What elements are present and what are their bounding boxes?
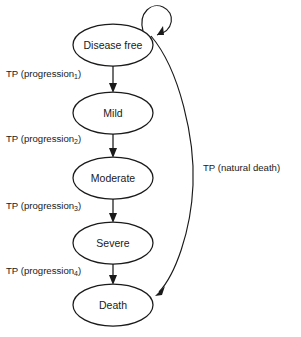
state-transition-diagram: Disease free Mild Moderate Severe Death …: [0, 0, 301, 337]
edge-label-progression-3-prefix: TP (progression: [6, 200, 74, 211]
edge-natural-death: [151, 36, 193, 296]
edge-label-progression-4-suffix: ): [78, 265, 81, 276]
node-mild[interactable]: Mild: [73, 92, 153, 134]
node-death[interactable]: Death: [73, 284, 153, 326]
edge-progression-4: [109, 264, 117, 285]
node-disease-free[interactable]: Disease free: [73, 24, 153, 66]
node-severe[interactable]: Severe: [73, 222, 153, 264]
natural-death-path: [151, 36, 193, 292]
edge-progression-3: [109, 199, 117, 223]
edge-label-progression-2-suffix: ): [78, 133, 81, 144]
natural-death-arrowhead: [155, 286, 165, 296]
edge-label-progression-3-suffix: ): [78, 200, 81, 211]
edge-label-progression-4: TP (progression4): [6, 265, 81, 277]
moderate-label: Moderate: [91, 172, 136, 184]
edge-label-progression-2-prefix: TP (progression: [6, 133, 74, 144]
death-label: Death: [99, 299, 127, 311]
edge-label-progression-1-prefix: TP (progression: [6, 68, 74, 79]
edge-progression-1: [109, 66, 117, 93]
edge-label-natural-death: TP (natural death): [203, 162, 280, 173]
edge-label-progression-1: TP (progression1): [6, 68, 81, 80]
edge-label-progression-3: TP (progression3): [6, 200, 81, 212]
edge-label-progression-4-prefix: TP (progression: [6, 265, 74, 276]
self-loop-path: [142, 6, 171, 35]
self-loop-arrowhead: [157, 26, 164, 35]
node-moderate[interactable]: Moderate: [73, 157, 153, 199]
disease-free-label: Disease free: [84, 39, 143, 51]
edge-label-progression-1-suffix: ): [78, 68, 81, 79]
mild-label: Mild: [103, 107, 122, 119]
diagram-canvas: Disease free Mild Moderate Severe Death …: [0, 0, 301, 337]
edge-stay-disease-free: [142, 6, 171, 35]
edge-progression-2: [109, 134, 117, 158]
severe-label: Severe: [96, 237, 129, 249]
edge-label-progression-2: TP (progression2): [6, 133, 81, 145]
